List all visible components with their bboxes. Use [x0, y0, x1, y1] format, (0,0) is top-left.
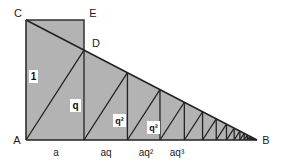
geometric-series-diagram: 1 q q² q³ C E D A B a aq aq² aq³	[0, 0, 286, 167]
point-label-d: D	[92, 37, 100, 49]
height-label-q2: q²	[115, 116, 124, 126]
point-label-b: B	[262, 134, 269, 146]
base-label-aq: aq	[100, 147, 111, 158]
point-label-e: E	[89, 7, 96, 19]
base-label-aq2: aq²	[139, 147, 154, 158]
height-label-1: 1	[31, 71, 37, 82]
height-label-q: q	[72, 100, 78, 111]
base-label-a: a	[53, 147, 59, 158]
height-label-q3: q³	[149, 123, 158, 133]
point-label-c: C	[14, 7, 22, 19]
base-label-aq3: aq³	[170, 147, 185, 158]
point-label-a: A	[13, 134, 21, 146]
